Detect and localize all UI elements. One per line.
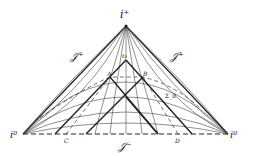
constant-r-lines [23, 26, 228, 134]
label-t0: t₀ [122, 52, 127, 59]
label-d: D [174, 137, 180, 144]
label-i0-left: i⁰ [10, 129, 17, 140]
label-scri-plus-right: 𝒥⁺ [169, 50, 184, 63]
label-sigma: Σ_0 [164, 92, 176, 100]
outer-boundary [23, 26, 228, 134]
label-scri-minus: 𝒥⁻ [117, 140, 132, 153]
penrose-diagram: i⁺ 𝒥⁺ 𝒥⁺ 𝒥⁻ i⁰ i⁰ t₀ A B C D Σ_0 [0, 0, 254, 156]
label-i0-right: i⁰ [230, 129, 237, 140]
label-b: B [142, 70, 148, 77]
label-a: A [106, 70, 112, 77]
label-scri-plus-left: 𝒥⁺ [69, 50, 84, 63]
point-top [125, 25, 128, 28]
label-c: C [64, 137, 69, 144]
label-i-plus: i⁺ [120, 8, 130, 21]
